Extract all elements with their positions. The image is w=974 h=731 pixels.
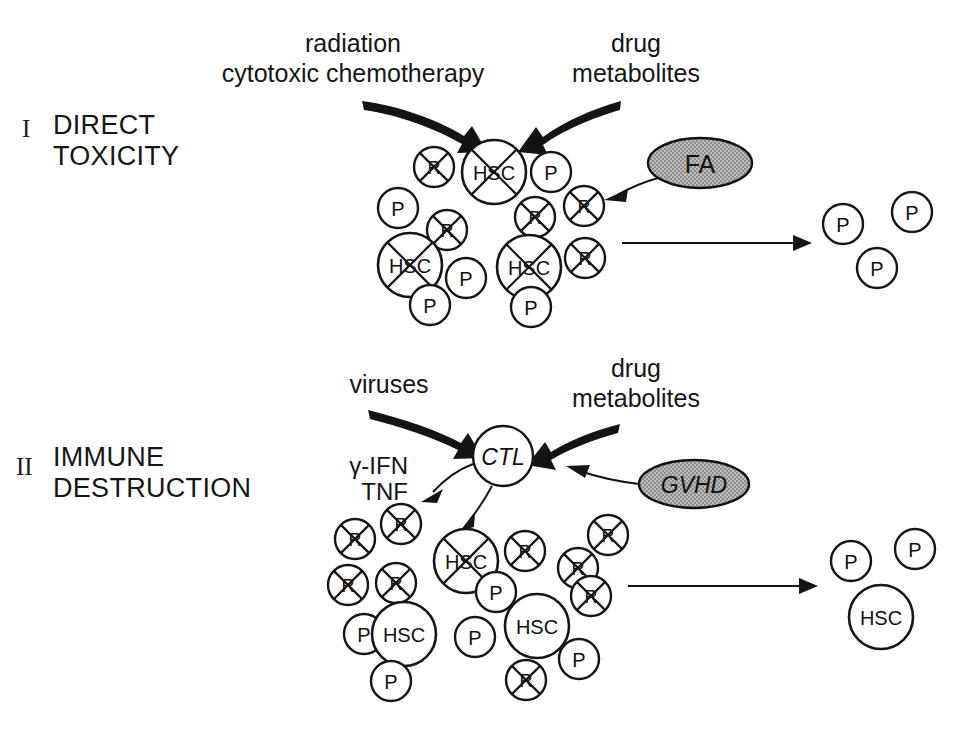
cell-label: P (844, 551, 857, 573)
cytokine-tnf-label: TNF (361, 478, 408, 505)
cell-p: P (559, 639, 599, 679)
cell-r-killed: R (565, 238, 605, 278)
panel-1-roman-numeral: I (22, 115, 30, 142)
cell-p: P (476, 572, 516, 612)
cell-label: P (468, 627, 481, 649)
cell-label: P (836, 214, 849, 236)
stimulus-drug-metabolites-2-line1: drug (611, 354, 661, 382)
stimulus-radiation-line2: cytotoxic chemotherapy (222, 59, 485, 87)
factor-fa-label: FA (685, 150, 716, 178)
cell-p: P (531, 152, 571, 192)
stimulus-drug-metabolites-line2: metabolites (572, 59, 700, 87)
factor-gvhd-label: GVHD (661, 472, 727, 498)
cell-p: P (371, 661, 411, 701)
cell-r-killed: R (328, 565, 368, 605)
cell-label: P (870, 258, 883, 280)
cell-label: P (905, 202, 918, 224)
stimulus-viruses-label: viruses (349, 370, 428, 398)
cell-p: P (857, 248, 897, 288)
panel-1-title-line2: TOXICITY (53, 141, 179, 171)
panel-1-title-line1: DIRECT (53, 110, 155, 140)
cell-r-killed: R (571, 576, 611, 616)
cell-p: P (378, 188, 418, 228)
cell-label: P (391, 198, 404, 220)
cell-label: P (489, 582, 502, 604)
mechanism-diagram: I DIRECT TOXICITY radiation cytotoxic ch… (0, 0, 974, 731)
panel-2-title-line2: DESTRUCTION (53, 473, 251, 503)
cell-p: P (410, 285, 450, 325)
cell-label: P (357, 624, 370, 646)
cell-p: P (892, 192, 932, 232)
cell-hsc: HSC (372, 602, 436, 666)
cell-r-killed: R (506, 660, 546, 700)
cell-p: P (823, 204, 863, 244)
cell-hsc: HSC (505, 594, 569, 658)
cytokine-gamma-ifn-label: γ-IFN (349, 452, 408, 479)
panel-2-roman-numeral: II (16, 453, 33, 480)
cell-hsc: HSC (849, 585, 913, 649)
cell-r-killed: R (588, 515, 628, 555)
cell-label: P (384, 671, 397, 693)
cell-p: P (511, 287, 551, 327)
cell-label: P (572, 649, 585, 671)
cell-p: P (895, 529, 935, 569)
cell-r-killed: R (505, 531, 545, 571)
panel-2-title-line1: IMMUNE (53, 442, 164, 472)
cell-p: P (455, 617, 495, 657)
cell-r-killed: R (515, 197, 555, 237)
diagram-root: I DIRECT TOXICITY radiation cytotoxic ch… (0, 0, 974, 731)
cell-label: P (459, 268, 472, 290)
stimulus-drug-metabolites-2-line2: metabolites (572, 384, 700, 412)
cell-r-killed: R (376, 563, 416, 603)
cell-p: P (446, 258, 486, 298)
cell-label: P (908, 539, 921, 561)
cell-ctl: CTL (473, 426, 533, 486)
cell-hsc-killed: HSC (462, 140, 526, 204)
cell-label: P (544, 162, 557, 184)
cell-r-killed: R (564, 186, 604, 226)
cell-label: P (423, 295, 436, 317)
cell-label: P (524, 297, 537, 319)
stimulus-drug-metabolites-line1: drug (611, 29, 661, 57)
cell-label: HSC (383, 624, 425, 646)
cell-label: HSC (516, 616, 558, 638)
cell-label: HSC (860, 607, 902, 629)
cell-r-killed: R (414, 147, 454, 187)
cell-r-killed: R (381, 504, 421, 544)
cell-r-killed: R (335, 519, 375, 559)
cell-ctl-label: CTL (481, 444, 524, 470)
cell-p: P (831, 541, 871, 581)
stimulus-radiation-line1: radiation (305, 29, 401, 57)
